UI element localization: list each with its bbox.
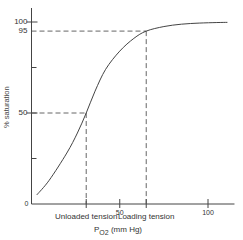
y-tick-label: 95 <box>19 27 28 35</box>
y-tick-label: 100 <box>14 18 27 26</box>
x-axis-label-sub: O2 <box>99 229 108 236</box>
saturation-curve <box>37 22 228 195</box>
y-axis-label: % saturation <box>2 86 11 128</box>
y-tick-label: 0 <box>25 200 29 207</box>
y-tick-label: 50 <box>19 109 28 117</box>
oxygen-dissociation-chart <box>0 0 243 240</box>
x-tick-label: Loading tension <box>118 213 175 221</box>
x-tick-label: 100 <box>202 209 214 216</box>
dashed-guides <box>32 31 147 204</box>
x-axis-label: PO2 (mm Hg) <box>94 226 142 234</box>
x-tick-label: Unloaded tension <box>55 213 117 221</box>
x-axis-label-unit: (mm Hg) <box>111 225 142 234</box>
axes <box>27 8 235 208</box>
